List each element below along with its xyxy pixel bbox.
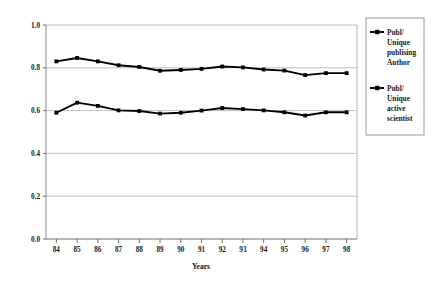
data-point <box>200 109 204 113</box>
legend-label-line: scientist <box>387 114 413 123</box>
x-tick-label-88: 88 <box>136 246 144 254</box>
legend-square-marker <box>375 86 379 90</box>
x-axis-tick-labels: 848586878889909192939495969798 <box>53 246 351 254</box>
legend-square-marker <box>375 30 379 34</box>
data-point <box>96 59 100 63</box>
data-point <box>324 71 328 75</box>
x-tick-label-87: 87 <box>115 246 123 254</box>
data-point <box>137 65 141 69</box>
data-point <box>220 65 224 69</box>
data-point <box>283 110 287 114</box>
legend-label-line: active <box>387 104 406 113</box>
y-tick-label-0.0: 0.0 <box>31 236 40 244</box>
y-tick-label-0.6: 0.6 <box>31 107 40 115</box>
data-point <box>262 68 266 72</box>
data-point <box>75 101 79 105</box>
legend-label-line: Publ/ <box>387 84 405 93</box>
x-axis-title: Years <box>192 262 210 271</box>
data-point <box>158 69 162 73</box>
x-tick-label-94: 94 <box>260 246 268 254</box>
legend-label-line: Unique <box>387 94 411 103</box>
x-tick-label-86: 86 <box>94 246 102 254</box>
chart-canvas: 0.00.20.40.60.81.0 848586878889909192939… <box>0 0 435 282</box>
data-point <box>220 106 224 110</box>
data-point <box>262 108 266 112</box>
y-tick-label-1.0: 1.0 <box>31 22 40 30</box>
data-point <box>54 59 58 63</box>
x-tick-label-91: 91 <box>198 246 206 254</box>
data-point <box>96 104 100 108</box>
data-point <box>117 108 121 112</box>
data-point <box>137 109 141 113</box>
data-point <box>179 111 183 115</box>
data-point <box>75 56 79 60</box>
legend-label-line: Publ/ <box>387 28 405 37</box>
x-tick-label-95: 95 <box>281 246 289 254</box>
data-point <box>54 111 58 115</box>
data-point <box>200 67 204 71</box>
x-tick-label-90: 90 <box>177 246 185 254</box>
x-tick-label-98: 98 <box>343 246 351 254</box>
x-tick-label-89: 89 <box>156 246 164 254</box>
x-tick-label-93: 93 <box>239 246 247 254</box>
data-point <box>345 110 349 114</box>
data-point <box>241 65 245 69</box>
data-point <box>158 112 162 116</box>
legend-label-line: Unique <box>387 38 411 47</box>
x-tick-label-85: 85 <box>74 246 82 254</box>
x-tick-label-92: 92 <box>219 246 227 254</box>
data-point <box>283 69 287 73</box>
y-tick-label-0.2: 0.2 <box>31 193 40 201</box>
data-point <box>345 71 349 75</box>
line-chart: 0.00.20.40.60.81.0 848586878889909192939… <box>0 0 435 282</box>
x-tick-label-96: 96 <box>302 246 310 254</box>
data-point <box>303 73 307 77</box>
x-tick-label-84: 84 <box>53 246 61 254</box>
data-point <box>241 107 245 111</box>
data-point <box>179 68 183 72</box>
x-tick-label-97: 97 <box>322 246 330 254</box>
data-point <box>117 63 121 67</box>
legend-label-line: publising <box>387 48 416 57</box>
y-tick-label-0.8: 0.8 <box>31 64 40 72</box>
legend-label-line: Author <box>387 58 411 67</box>
y-tick-label-0.4: 0.4 <box>31 150 40 158</box>
data-point <box>324 110 328 114</box>
data-point <box>303 114 307 118</box>
